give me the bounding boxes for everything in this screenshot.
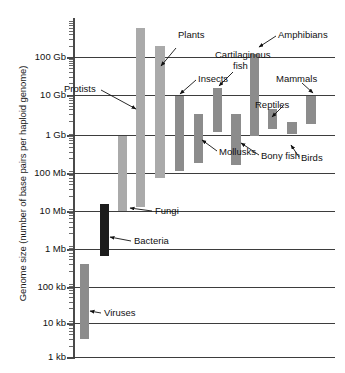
- label-mollusks: Mollusks: [219, 146, 256, 157]
- y-minor-tick: [69, 39, 73, 40]
- y-minor-tick: [69, 114, 73, 115]
- label-plants: Plants: [178, 29, 204, 40]
- y-minor-tick: [69, 23, 73, 24]
- y-minor-tick: [69, 253, 73, 254]
- range-bar-bacteria: [100, 204, 109, 256]
- y-minor-tick: [69, 325, 73, 326]
- range-bar-fungi: [118, 136, 127, 211]
- y-minor-tick: [69, 196, 73, 197]
- y-minor-tick: [69, 65, 73, 66]
- label-cartilaginous-fish: Cartilaginous: [215, 49, 270, 60]
- y-label-1kb: 1 kb: [48, 351, 66, 362]
- y-minor-tick: [69, 297, 73, 298]
- y-minor-tick: [69, 246, 73, 247]
- range-bar-protists: [136, 28, 145, 207]
- label-cartilaginous-fish-2: fish: [233, 60, 248, 71]
- y-minor-tick: [69, 213, 73, 214]
- gridline-100gb: [73, 57, 335, 58]
- range-bar-mammals: [306, 96, 316, 124]
- range-bar-cartilaginous-fish: [213, 88, 222, 132]
- y-minor-tick: [69, 264, 73, 265]
- y-label-1gb: 1 Gb: [45, 129, 66, 140]
- y-label-100mb: 100 Mb: [34, 167, 66, 178]
- y-minor-tick: [69, 152, 73, 153]
- range-bar-viruses: [80, 264, 89, 339]
- gridline-1kb: [73, 357, 335, 358]
- y-minor-tick: [69, 184, 73, 185]
- y-minor-tick: [69, 334, 73, 335]
- label-bacteria: Bacteria: [134, 235, 169, 246]
- range-bar-bony-fish: [231, 114, 241, 165]
- label-birds: Birds: [301, 152, 323, 163]
- y-minor-tick: [69, 68, 73, 69]
- label-protists: Protists: [64, 83, 96, 94]
- y-minor-tick: [69, 227, 73, 228]
- y-minor-tick: [69, 61, 73, 62]
- y-minor-tick: [69, 250, 73, 251]
- y-minor-tick: [69, 233, 73, 234]
- y-minor-tick: [69, 215, 73, 216]
- gridline-100kb: [73, 287, 335, 288]
- y-minor-tick: [69, 290, 73, 291]
- y-minor-tick: [69, 209, 73, 210]
- y-minor-tick: [69, 346, 73, 347]
- y-label-100kb: 100 kb: [37, 281, 66, 292]
- y-minor-tick: [69, 100, 73, 101]
- y-label-10gb: 10 Gb: [40, 89, 66, 100]
- y-minor-tick: [69, 158, 73, 159]
- y-minor-tick: [69, 63, 73, 64]
- label-fungi: Fungi: [155, 205, 179, 216]
- y-minor-tick: [69, 21, 73, 22]
- gridline-10gb: [73, 95, 335, 96]
- y-minor-tick: [69, 259, 73, 260]
- gridline-1gb: [73, 135, 335, 136]
- y-minor-tick: [69, 339, 73, 340]
- y-minor-tick: [69, 34, 73, 35]
- y-minor-tick: [69, 328, 73, 329]
- range-bar-mollusks: [194, 114, 203, 163]
- y-minor-tick: [69, 138, 73, 139]
- y-minor-tick: [69, 121, 73, 122]
- gridline-1mb: [73, 249, 335, 250]
- y-minor-tick: [69, 98, 73, 99]
- y-axis-line: [73, 18, 75, 359]
- y-minor-tick: [69, 271, 73, 272]
- y-minor-tick: [69, 302, 73, 303]
- range-bar-birds: [287, 122, 297, 133]
- y-minor-tick: [69, 109, 73, 110]
- gridline-100mb: [73, 173, 335, 174]
- range-bar-insects: [175, 96, 184, 171]
- range-bar-reptiles: [268, 109, 277, 129]
- y-minor-tick: [69, 25, 73, 26]
- y-minor-tick: [69, 293, 73, 294]
- y-minor-tick: [69, 140, 73, 141]
- range-bar-amphibians: [250, 54, 259, 136]
- y-minor-tick: [69, 106, 73, 107]
- y-minor-tick: [69, 46, 73, 47]
- y-minor-tick: [69, 72, 73, 73]
- y-minor-tick: [69, 59, 73, 60]
- label-insects: Insects: [198, 73, 228, 84]
- label-amphibians: Amphibians: [278, 29, 328, 40]
- y-minor-tick: [69, 77, 73, 78]
- y-minor-tick: [69, 189, 73, 190]
- genome-size-chart: Genome size (number of base pairs per ha…: [0, 0, 345, 373]
- y-minor-tick: [69, 175, 73, 176]
- label-viruses: Viruses: [104, 307, 136, 318]
- label-reptiles: Reptiles: [255, 99, 289, 110]
- y-minor-tick: [69, 28, 73, 29]
- y-minor-tick: [69, 284, 73, 285]
- y-axis-title: Genome size (number of base pairs per ha…: [17, 34, 28, 334]
- y-minor-tick: [69, 218, 73, 219]
- y-minor-tick: [69, 181, 73, 182]
- y-label-1mb: 1 Mb: [45, 243, 66, 254]
- gridline-10mb: [73, 211, 335, 212]
- gridline-10kb: [73, 323, 335, 324]
- label-bony-fish: Bony fish: [261, 150, 300, 161]
- y-minor-tick: [69, 103, 73, 104]
- y-label-10mb: 10 Mb: [40, 205, 66, 216]
- y-minor-tick: [69, 147, 73, 148]
- y-minor-tick: [69, 308, 73, 309]
- y-minor-tick: [69, 256, 73, 257]
- range-bar-plants: [155, 46, 165, 178]
